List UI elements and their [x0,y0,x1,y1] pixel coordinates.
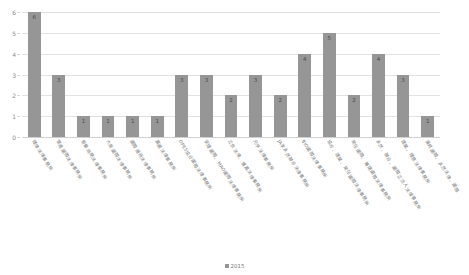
bar-slot: 3 [170,12,195,137]
bar-slot: 1 [71,12,96,137]
bar-slot: 3 [391,12,416,137]
bar-slot: 1 [415,12,440,137]
bar-slot: 3 [47,12,72,137]
y-tick-mark-5 [17,33,20,34]
bar-value-label: 3 [52,77,65,83]
x-axis-label: 眾達國際法律事務所 [55,139,84,181]
y-tick-label-1: 1 [12,113,16,120]
bar[interactable]: 1 [102,116,115,137]
bar[interactable]: 2 [225,95,238,137]
bar[interactable]: 1 [77,116,90,137]
x-axis-label: 協合、建業、常在國際法律事務所 [326,139,371,207]
bar-slot: 2 [219,12,244,137]
bar[interactable]: 6 [28,12,41,137]
y-tick-mark-1 [17,116,20,117]
bar-slot: 1 [120,12,145,137]
x-axis-label: 大衆國際法律事務所 [104,139,133,181]
bar-slot: 4 [292,12,317,137]
x-axis-labels: 理律法律事務所眾達國際法律事務所普華商務法律事務所大衆國際法律事務所國際通商法律… [22,139,440,249]
bar-slot: 5 [317,12,342,137]
bar-slot: 1 [145,12,170,137]
bar-slot: 6 [22,12,47,137]
bar-value-label: 1 [77,118,90,124]
bar-slot: 2 [342,12,367,137]
y-tick-mark-3 [17,75,20,76]
bar-value-label: 4 [372,56,385,62]
bar-value-label: 6 [28,14,41,20]
bar-slot: 1 [96,12,121,137]
bar[interactable]: 1 [151,116,164,137]
chart-legend: 2015 [0,263,469,269]
grid-line-0 [22,137,440,138]
y-tick-mark-0 [17,137,20,138]
bar-slot: 4 [366,12,391,137]
bar[interactable]: 3 [52,75,65,138]
y-tick-label-5: 5 [12,29,16,36]
y-tick-label-2: 2 [12,92,16,99]
y-tick-label-4: 4 [12,50,16,57]
bar-value-label: 1 [421,118,434,124]
bar-chart: 0123456 63111133232452431 理律法律事務所眾達國際法律事… [0,0,469,275]
bar[interactable]: 4 [298,54,311,137]
bar[interactable]: 2 [274,95,287,137]
y-tick-mark-4 [17,54,20,55]
x-axis-label: 漢邦國際、永然法律、國際 [424,139,461,194]
bar[interactable]: 3 [175,75,188,138]
x-axis-label: 常在國際、賽瑞國際法律事務所 [350,139,392,202]
legend-label-2015: 2015 [231,263,245,269]
bar-value-label: 1 [151,118,164,124]
bar[interactable]: 1 [421,116,434,137]
x-axis-label: 元亨法律事務所 [252,139,275,172]
bar-slot: 3 [194,12,219,137]
x-axis-label: BIO國際法律事務所 [301,139,329,179]
x-axis-label: 理律法律事務所 [31,139,54,172]
bar[interactable]: 4 [372,54,385,137]
bar[interactable]: 3 [249,75,262,138]
bar-value-label: 3 [200,77,213,83]
bar-value-label: 2 [274,97,287,103]
bar-slot: 3 [243,12,268,137]
y-tick-label-3: 3 [12,71,16,78]
bar-value-label: 1 [102,118,115,124]
x-axis-label: 永然、聯合、國際正治人法律事務所 [375,139,422,211]
x-axis-label: 安理國際、MAO國際法律事務所 [203,139,245,203]
bar[interactable]: 5 [323,33,336,137]
bar-series-2015: 63111133232452431 [22,12,440,137]
bar-value-label: 3 [175,77,188,83]
y-axis: 0123456 [0,12,20,137]
bar[interactable]: 1 [126,116,139,137]
bar[interactable]: 3 [200,75,213,138]
bar-value-label: 1 [126,118,139,124]
x-axis-label: 國際通商法律事務所 [129,139,158,181]
y-tick-mark-6 [17,12,20,13]
y-tick-mark-2 [17,95,20,96]
bar-value-label: 2 [225,97,238,103]
y-tick-label-0: 0 [12,134,16,141]
bar-value-label: 4 [298,56,311,62]
bar[interactable]: 2 [348,95,361,137]
bar-value-label: 3 [397,77,410,83]
bar-slot: 2 [268,12,293,137]
y-tick-label-6: 6 [12,9,16,16]
legend-swatch-2015 [225,264,229,268]
x-axis-label: 普華商務法律事務所 [80,139,109,181]
bar[interactable]: 3 [397,75,410,138]
bar-value-label: 5 [323,35,336,41]
x-axis-label: 萬國法律事務所 [153,139,176,172]
bar-value-label: 2 [348,97,361,103]
bar-value-label: 3 [249,77,262,83]
